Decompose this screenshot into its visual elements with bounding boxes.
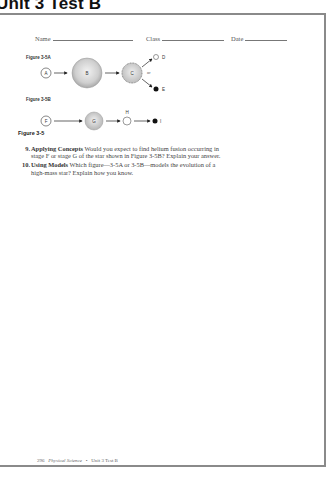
question-number: 9. [20,145,30,152]
page-footer: 296 Physical Science • Unit 3 Test B [37,458,118,463]
footer-section: Unit 3 Test B [91,458,118,463]
date-field[interactable]: Date [231,35,287,42]
svg-text:F: F [45,119,48,124]
svg-text:H: H [125,110,128,115]
date-label: Date [231,35,243,42]
page-number: 296 [37,458,45,463]
svg-text:E: E [162,87,165,92]
question-title: Using Models [31,161,68,168]
class-blank[interactable] [162,35,224,41]
svg-text:or: or [147,70,151,75]
figure-3-5a-diagram: A B C D or E [20,49,200,101]
question-9: 9. Applying Concepts Would you expect to… [20,145,230,159]
figure-3-5b-diagram: F G H I [20,101,200,131]
class-field[interactable]: Class [146,35,224,42]
footer-bullet: • [86,458,88,463]
question-list: 9. Applying Concepts Would you expect to… [20,145,230,178]
svg-text:G: G [92,119,96,124]
unit-title: Unit 3 Test B [0,0,101,14]
question-title: Applying Concepts [31,145,83,152]
name-field[interactable]: Name [35,35,133,42]
name-blank[interactable] [53,35,133,41]
book-title: Physical Science [48,458,82,463]
svg-text:I: I [160,119,161,124]
question-10: 10. Using Models Which figure—3-5A or 3-… [20,161,230,175]
figure-caption: Figure 3-5 [18,130,44,136]
question-number: 10. [20,161,30,168]
svg-text:B: B [85,71,88,76]
svg-text:A: A [44,71,47,76]
date-blank[interactable] [245,35,287,41]
class-label: Class [146,35,160,42]
svg-text:D: D [162,55,166,60]
name-label: Name [35,35,51,42]
worksheet-page: Name Class Date Figure 3-5A A [0,13,326,467]
